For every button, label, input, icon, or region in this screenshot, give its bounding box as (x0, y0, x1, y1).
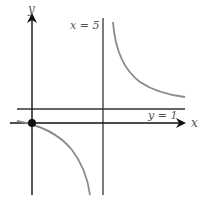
horizontal-asymptote-label: y = 1 (147, 109, 177, 122)
graph: y x x = 5 y = 1 (0, 0, 210, 208)
y-axis-label: y (27, 2, 35, 16)
origin-point (28, 119, 36, 127)
x-axis-label: x (191, 116, 198, 130)
curve-upper-branch (113, 22, 185, 97)
vertical-asymptote-label: x = 5 (70, 19, 99, 32)
curve-lower-branch (17, 121, 90, 195)
